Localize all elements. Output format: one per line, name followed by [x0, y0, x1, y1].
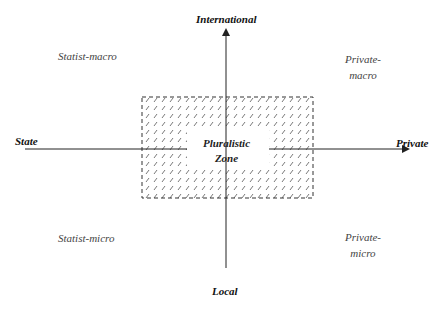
- axis-label-private: Private: [396, 136, 428, 150]
- zone-label-line2: Zone: [189, 151, 264, 166]
- axis-label-state: State: [15, 134, 38, 148]
- quadrant-statist-micro: Statist-micro: [58, 231, 114, 245]
- quadrant-statist-macro: Statist-macro: [58, 49, 117, 63]
- quadrant-private-micro: Private- micro: [338, 230, 388, 260]
- quadrant-private-micro-line1: Private-: [338, 230, 388, 244]
- quadrant-private-macro-line1: Private-: [338, 52, 388, 66]
- pluralistic-zone-label: Pluralistic Zone: [189, 136, 264, 166]
- quadrant-private-micro-line2: micro: [338, 246, 388, 260]
- quadrant-private-macro-line2: macro: [338, 68, 388, 82]
- axis-label-local: Local: [212, 284, 238, 298]
- quadrant-private-macro: Private- macro: [338, 52, 388, 82]
- axis-label-international: International: [196, 12, 257, 26]
- zone-label-line1: Pluralistic: [189, 136, 264, 151]
